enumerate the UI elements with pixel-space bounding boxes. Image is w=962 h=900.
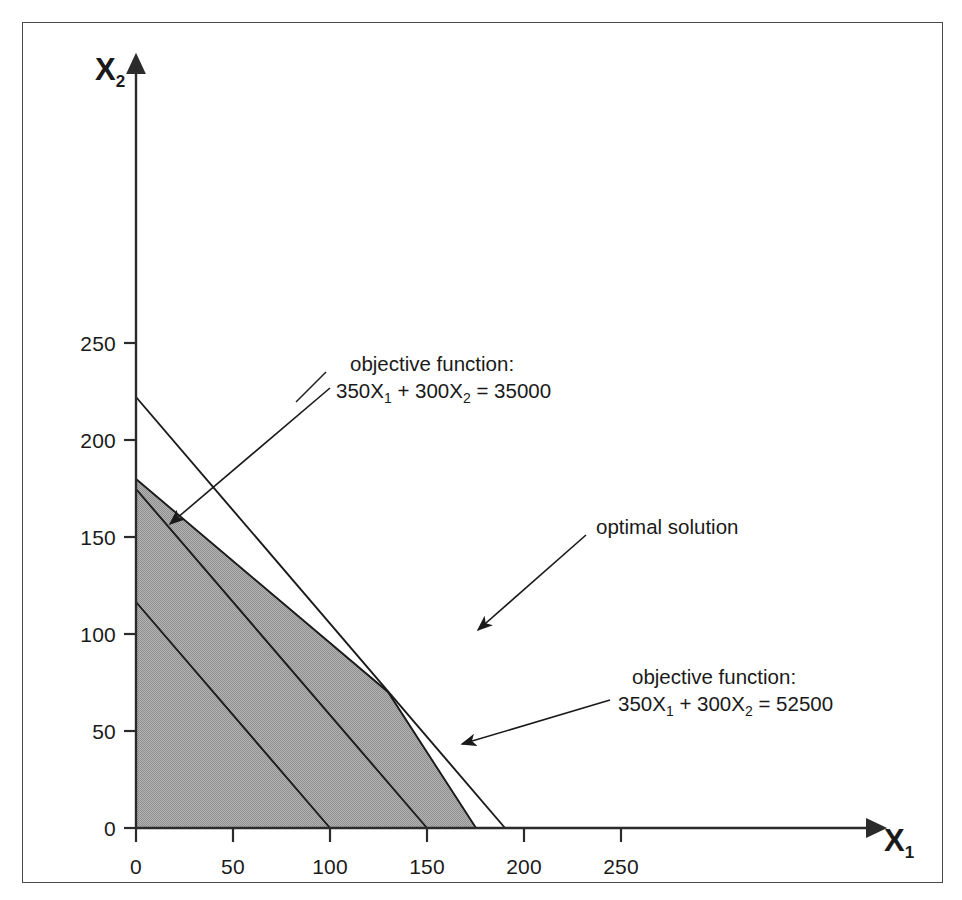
x-axis-label: X1 [884, 823, 914, 863]
objective-35000-arrow [170, 388, 330, 524]
lp-graph-svg [0, 0, 962, 900]
optimal-solution-arrow [478, 535, 586, 630]
x-tick-label-50: 50 [221, 855, 245, 879]
obj2-term2: + 300X [674, 692, 745, 715]
objective-52500-equation: 350X1 + 300X2 = 52500 [618, 690, 833, 721]
y-tick-label-50: 50 [68, 720, 116, 744]
y-axis-ticks [124, 343, 136, 828]
x-axis-label-text: X [884, 823, 905, 858]
obj1-term1: 350X [336, 379, 384, 402]
x-tick-label-100: 100 [312, 855, 348, 879]
objective-35000-leader [296, 372, 326, 402]
objective-35000-caption: objective function: [336, 350, 551, 377]
figure-page: 250 200 150 100 50 0 0 50 100 150 200 25… [0, 0, 962, 900]
y-tick-label-200: 200 [68, 429, 116, 453]
y-axis-label: X2 [95, 52, 125, 92]
optimal-solution-annotation: optimal solution [596, 513, 738, 540]
y-tick-label-0: 0 [68, 817, 116, 841]
obj1-sub2: 2 [463, 390, 471, 406]
obj2-term1: 350X [618, 692, 666, 715]
y-tick-label-100: 100 [68, 623, 116, 647]
objective-35000-equation: 350X1 + 300X2 = 35000 [336, 377, 551, 408]
x-tick-label-150: 150 [409, 855, 445, 879]
feasible-region [136, 479, 476, 828]
x-axis-ticks [136, 828, 621, 842]
x-tick-label-250: 250 [603, 855, 639, 879]
objective-52500-arrow [462, 700, 610, 744]
y-axis-label-text: X [95, 52, 116, 87]
obj1-value: = 35000 [471, 379, 551, 402]
objective-52500-caption: objective function: [618, 663, 833, 690]
obj2-value: = 52500 [753, 692, 833, 715]
x-tick-label-200: 200 [506, 855, 542, 879]
objective-52500-annotation: objective function: 350X1 + 300X2 = 5250… [618, 663, 833, 721]
obj2-sub1: 1 [666, 703, 674, 719]
x-tick-label-0: 0 [130, 855, 142, 879]
objective-35000-annotation: objective function: 350X1 + 300X2 = 3500… [336, 350, 551, 408]
y-tick-label-150: 150 [68, 526, 116, 550]
x-axis-label-sub: 1 [905, 843, 914, 862]
y-tick-label-250: 250 [68, 332, 116, 356]
optimal-solution-label: optimal solution [596, 513, 738, 540]
obj1-term2: + 300X [392, 379, 463, 402]
obj1-sub1: 1 [384, 390, 392, 406]
y-axis-label-sub: 2 [116, 72, 125, 91]
obj2-sub2: 2 [745, 703, 753, 719]
